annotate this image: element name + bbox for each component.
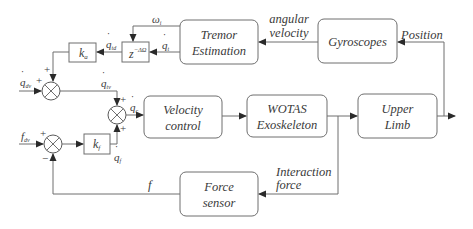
angular-velocity-label-2: velocity [270,26,309,40]
force-sensor-label-2: sensor [203,196,236,210]
svg-text:˙: ˙ [20,68,24,80]
svg-text:˙: ˙ [114,143,118,155]
f-label: f [148,178,153,192]
force-sensor-block: Force sensor [180,172,258,216]
omega-label: ωi [152,13,162,26]
interaction-force-label-2: force [276,178,302,192]
qc-label: qc ˙ [130,93,139,114]
position-label: Position [400,28,443,42]
sum2-top-sign: + [120,93,126,105]
sum3-left-sign: + [40,127,46,139]
sum3-bottom-sign: − [42,152,48,164]
wotas-exoskeleton-block: WOTAS Exoskeleton [247,95,327,137]
fdv-label: fdv [21,130,30,143]
qtv-line [60,91,117,105]
svg-text:˙: ˙ [101,69,105,81]
velocity-control-block: Velocity control [144,96,222,138]
qf-label: qf ˙ [114,143,123,164]
sum1-left-sign: + [36,74,42,86]
svg-text:˙: ˙ [162,31,166,43]
qtd-label: qtd ˙ [106,30,117,51]
qf-line [110,125,117,144]
svg-text:˙: ˙ [106,30,110,42]
wotas-label-2: Exoskeleton [256,118,317,132]
upper-limb-label-2: Limb [384,118,411,132]
interaction-force-label-1: Interaction [275,165,332,179]
delay-block: z−ΔΩ [122,42,149,62]
sum2-bottom-sign: + [120,122,126,134]
gyroscopes-label: Gyroscopes [328,35,387,49]
tremor-estimation-block: Tremor Estimation [180,20,258,64]
upper-limb-block: Upper Limb [358,94,437,138]
angular-velocity-label-1: angular [269,12,309,26]
omega-line [133,26,180,41]
wotas-label-1: WOTAS [267,102,307,116]
ka-output-line [53,52,69,81]
gain-kf-block: kf [84,134,110,154]
velocity-control-label-1: Velocity [163,103,203,117]
tremor-estimation-label-1: Tremor [201,28,237,42]
force-sensor-label-1: Force [203,180,234,194]
summing-junction-3 [44,135,62,153]
control-block-diagram: Tremor Estimation Gyroscopes z−ΔΩ ka Vel… [0,0,473,229]
sum1-top-sign: + [44,63,50,75]
qdv-label: qdv ˙ [20,68,32,89]
velocity-control-label-2: control [165,119,201,133]
summing-junction-1 [42,82,60,100]
qt-label: qt ˙ [162,31,170,52]
tremor-estimation-label-2: Estimation [191,44,246,58]
upper-limb-label-1: Upper [382,102,414,116]
gain-ka-block: ka [69,43,96,62]
gyroscopes-block: Gyroscopes [318,19,397,63]
qtv-label: qtv ˙ [101,69,111,90]
svg-text:˙: ˙ [130,93,134,105]
